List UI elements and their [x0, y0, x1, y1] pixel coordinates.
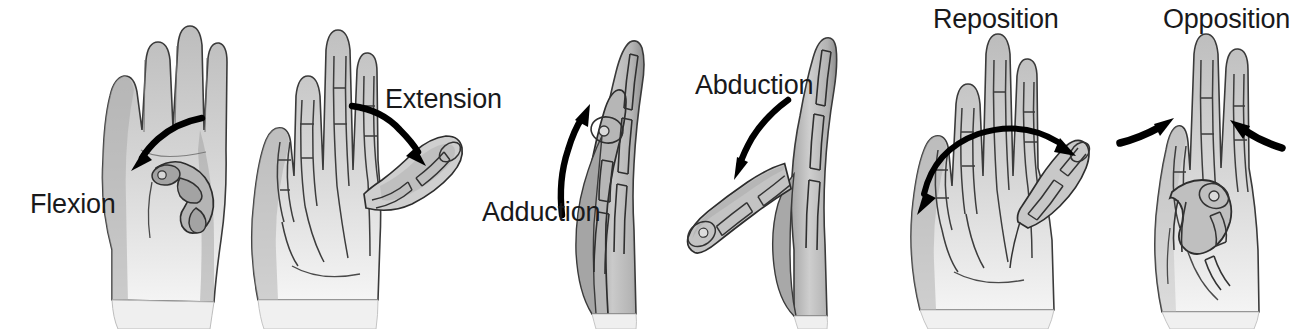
panel-flexion: Flexion: [0, 0, 240, 329]
label-abduction: Abduction: [695, 72, 813, 99]
hand-illustration-abduction: [670, 0, 860, 329]
label-opposition: Opposition: [1163, 6, 1290, 33]
panel-opposition: Opposition: [1110, 0, 1300, 329]
panel-adduction: Adduction: [480, 0, 680, 329]
hand-illustration-opposition: [1110, 0, 1300, 329]
thumb-movements-figure: Flexion: [0, 0, 1300, 329]
panel-abduction: Abduction: [670, 0, 860, 329]
panel-extension: Extension: [240, 0, 500, 329]
label-reposition: Reposition: [933, 6, 1059, 33]
panel-reposition: Reposition: [880, 0, 1110, 329]
label-adduction: Adduction: [482, 199, 600, 226]
hand-illustration-reposition: [880, 0, 1110, 329]
label-flexion: Flexion: [30, 191, 116, 218]
hand-illustration-extension: [240, 0, 500, 329]
hand-illustration-adduction: [480, 0, 680, 329]
hand-illustration-flexion: [0, 0, 240, 329]
